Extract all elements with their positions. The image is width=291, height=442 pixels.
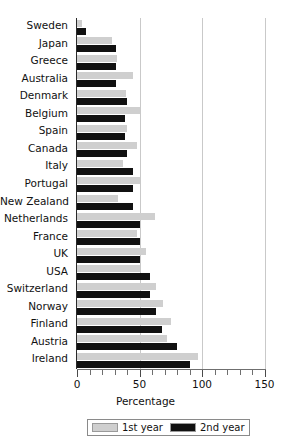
x-tick-40 [127, 370, 128, 375]
bar-second-year [77, 168, 133, 175]
x-tick-50 [140, 370, 141, 377]
bar-second-year [77, 80, 116, 87]
bar-group [77, 318, 265, 336]
category-label: Canada [0, 143, 73, 153]
bar-second-year [77, 203, 133, 210]
bar-second-year [77, 63, 116, 70]
x-tick-80 [177, 370, 178, 375]
bar-first-year [77, 160, 123, 167]
bar-first-year [77, 283, 156, 290]
category-label: Sweden [0, 20, 73, 30]
x-tick-100 [202, 370, 203, 377]
legend-entry-second-year: 2nd year [170, 422, 245, 433]
category-label: Portugal [0, 178, 73, 188]
bar-group [77, 300, 265, 318]
bar-second-year [77, 291, 150, 298]
x-tick-label-100: 100 [192, 378, 212, 390]
bar-group [77, 90, 265, 108]
x-tick-label-50: 50 [133, 378, 146, 390]
legend-label-second-year: 2nd year [200, 422, 245, 433]
category-label: USA [0, 266, 73, 276]
bar-second-year [77, 150, 127, 157]
bar-group [77, 335, 265, 353]
bar-first-year [77, 353, 198, 360]
x-tick-110 [215, 370, 216, 375]
bar-first-year [77, 195, 118, 202]
legend-swatch-first-year [92, 423, 118, 432]
bar-group [77, 72, 265, 90]
category-label: Italy [0, 160, 73, 170]
bar-second-year [77, 221, 140, 228]
category-label: Switzerland [0, 283, 73, 293]
category-label: UK [0, 248, 73, 258]
category-label: New Zealand [0, 196, 73, 206]
x-tick-120 [227, 370, 228, 375]
category-label: Spain [0, 125, 73, 135]
bar-second-year [77, 273, 150, 280]
category-label: Austria [0, 336, 73, 346]
bar-second-year [77, 115, 125, 122]
category-label: Ireland [0, 353, 73, 363]
bar-first-year [77, 90, 126, 97]
bar-second-year [77, 238, 140, 245]
x-axis-line [77, 369, 266, 370]
bar-first-year [77, 142, 137, 149]
bar-first-year [77, 72, 133, 79]
y-axis-line [76, 18, 77, 369]
x-axis-title: Percentage [0, 395, 291, 407]
bar-first-year [77, 300, 163, 307]
bar-second-year [77, 133, 125, 140]
bar-first-year [77, 107, 140, 114]
category-label: Belgium [0, 108, 73, 118]
category-label: Denmark [0, 90, 73, 100]
bar-second-year [77, 343, 177, 350]
x-tick-130 [240, 370, 241, 375]
category-label: Greece [0, 55, 73, 65]
bar-first-year [77, 55, 117, 62]
bar-group [77, 160, 265, 178]
bar-first-year [77, 265, 140, 272]
bar-second-year [77, 98, 127, 105]
bar-first-year [77, 335, 167, 342]
bar-second-year [77, 28, 86, 35]
bar-group [77, 177, 265, 195]
bar-second-year [77, 308, 156, 315]
x-tick-30 [115, 370, 116, 375]
bar-group [77, 20, 265, 38]
legend-entry-first-year: 1st year [92, 422, 163, 433]
bar-first-year [77, 318, 171, 325]
bar-group [77, 230, 265, 248]
plot-area [77, 18, 265, 369]
bar-first-year [77, 248, 146, 255]
bar-group [77, 107, 265, 125]
x-tick-label-0: 0 [74, 378, 81, 390]
bar-first-year [77, 20, 82, 27]
bar-group [77, 265, 265, 283]
x-tick-140 [252, 370, 253, 375]
category-label: France [0, 231, 73, 241]
x-tick-label-150: 150 [254, 378, 274, 390]
bar-group [77, 283, 265, 301]
bar-first-year [77, 37, 112, 44]
bar-second-year [77, 256, 140, 263]
bar-second-year [77, 326, 162, 333]
bar-second-year [77, 185, 133, 192]
legend-label-first-year: 1st year [122, 422, 163, 433]
bar-group [77, 37, 265, 55]
bar-first-year [77, 230, 137, 237]
bar-group [77, 213, 265, 231]
bar-first-year [77, 213, 155, 220]
category-label: Japan [0, 38, 73, 48]
legend-swatch-second-year [170, 423, 196, 432]
chart-legend: 1st year 2nd year [87, 419, 250, 436]
x-tick-60 [152, 370, 153, 375]
category-label: Norway [0, 301, 73, 311]
bar-group [77, 55, 265, 73]
bar-chart: 050100150 SwedenJapanGreeceAustraliaDenm… [0, 0, 291, 442]
category-label: Netherlands [0, 213, 73, 223]
x-tick-70 [165, 370, 166, 375]
bar-group [77, 195, 265, 213]
bar-second-year [77, 45, 116, 52]
x-tick-0 [77, 370, 78, 377]
bar-second-year [77, 361, 190, 368]
